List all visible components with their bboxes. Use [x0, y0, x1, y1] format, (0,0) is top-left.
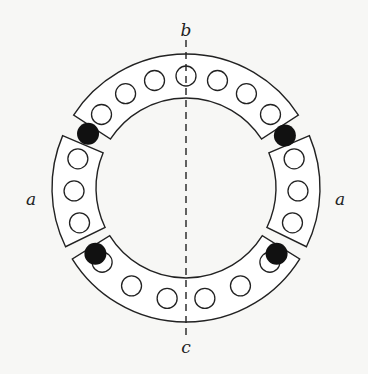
conductor-circle — [282, 213, 302, 233]
black-dot — [77, 123, 99, 145]
conductor-circle — [284, 149, 304, 169]
conductor-circle — [70, 213, 90, 233]
label-b: b — [181, 20, 192, 40]
machine-cross-section-diagram: b c a a — [0, 0, 368, 374]
conductor-circle — [116, 84, 136, 104]
conductor-circle — [92, 104, 112, 124]
label-a-left: a — [26, 189, 36, 209]
label-a-right: a — [335, 189, 345, 209]
conductor-circle — [68, 149, 88, 169]
conductor-circle — [64, 181, 84, 201]
conductor-circle — [260, 104, 280, 124]
black-dot — [274, 124, 296, 146]
diagram-stage: b c a a — [0, 0, 368, 374]
black-dot — [266, 243, 288, 265]
conductor-circle — [195, 288, 215, 308]
conductor-circle — [288, 181, 308, 201]
conductor-circle — [236, 84, 256, 104]
conductor-circle — [230, 276, 250, 296]
conductor-circle — [122, 276, 142, 296]
conductor-circle — [207, 71, 227, 91]
conductor-circle — [145, 71, 165, 91]
label-c: c — [181, 337, 191, 357]
conductor-circle — [157, 288, 177, 308]
black-dot — [84, 243, 106, 265]
